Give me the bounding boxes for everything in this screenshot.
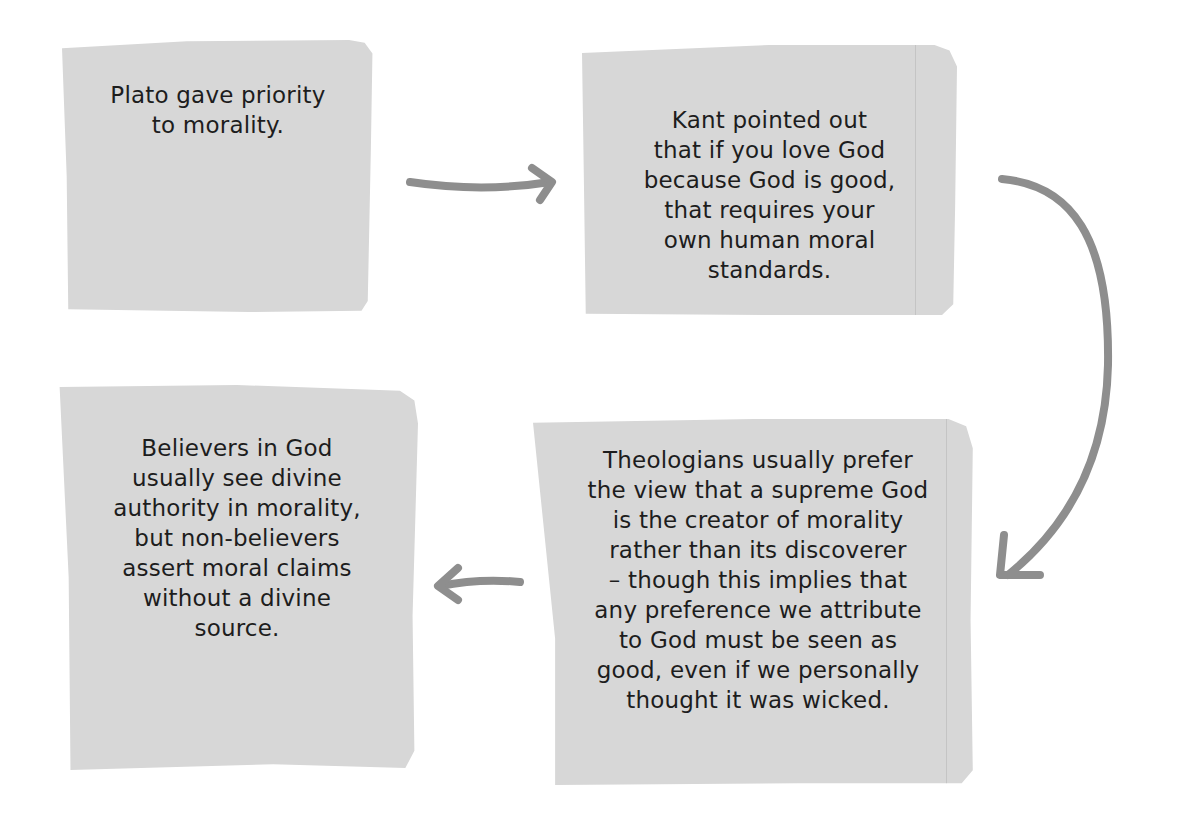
card-plato-text: Plato gave priority to morality. <box>62 80 374 140</box>
paper-fold-line <box>915 45 916 315</box>
card-theologians-text: Theologians usually prefer the view that… <box>541 445 975 715</box>
card-kant: Kant pointed out that if you love God be… <box>582 45 957 315</box>
arrow-right-icon <box>400 160 560 210</box>
card-believers-text: Believers in God usually see divine auth… <box>56 433 418 643</box>
arrow-left-icon <box>430 560 530 610</box>
card-plato: Plato gave priority to morality. <box>62 40 374 312</box>
paper-fold-line <box>946 419 947 785</box>
curved-arrow-down-icon <box>990 165 1120 585</box>
card-theologians: Theologians usually prefer the view that… <box>533 419 975 785</box>
card-kant-text: Kant pointed out that if you love God be… <box>582 105 957 285</box>
card-believers: Believers in God usually see divine auth… <box>56 385 418 770</box>
